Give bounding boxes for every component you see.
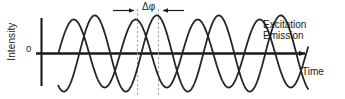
plot-canvas [0,0,345,99]
x-axis-title: Time [302,66,324,77]
legend-item-emission: Emission [263,30,306,41]
y-axis-title: Intensity [6,12,17,72]
excitation-emission-phase-shift-figure: Intensity 0 Time Excitation Emission Δφ [0,0,345,99]
legend-item-excitation: Excitation [263,19,306,30]
phase-shift-label: Δφ [142,1,155,12]
legend: Excitation Emission [263,19,306,41]
y-axis-zero-tick-label: 0 [26,44,31,55]
